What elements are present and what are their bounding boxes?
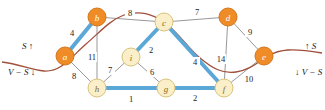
edge-weight-fg: 2	[193, 93, 197, 103]
graph-node-f[interactable]: f	[215, 79, 233, 97]
edge-weight-hi: 7	[108, 65, 112, 75]
mst-cut-diagram: abcdefghi48811724914102176S ↑V − S ↓↑ S↓…	[0, 0, 325, 110]
node-label-d: d	[226, 13, 231, 23]
edge-weight-de: 9	[248, 27, 252, 37]
edge-weight-df: 14	[217, 54, 226, 64]
graph-node-e[interactable]: e	[255, 47, 273, 65]
tree-edge-cf	[164, 22, 224, 88]
edge-weight-cd: 7	[195, 7, 199, 17]
cut-label-left-bottom: V − S ↓	[8, 67, 35, 77]
edge-weight-ah: 8	[72, 71, 76, 81]
graph-edge-cd	[164, 17, 228, 22]
node-label-b: b	[95, 13, 100, 23]
graph-node-h[interactable]: h	[88, 79, 106, 97]
node-label-c: c	[162, 18, 166, 28]
graph-node-c[interactable]: c	[155, 13, 173, 31]
graph-edge-df	[224, 17, 228, 88]
graph-node-d[interactable]: d	[219, 8, 237, 26]
edge-weight-gh: 1	[129, 94, 133, 104]
diagram-canvas: abcdefghi48811724914102176S ↑V − S ↓↑ S↓…	[0, 0, 325, 110]
cut-label-left-top: S ↑	[22, 41, 33, 51]
node-label-a: a	[63, 52, 68, 62]
edge-weight-ig: 6	[150, 67, 154, 77]
graph-node-a[interactable]: a	[56, 47, 74, 65]
graph-node-i[interactable]: i	[122, 48, 140, 66]
graph-node-g[interactable]: g	[157, 79, 175, 97]
node-label-h: h	[95, 84, 100, 94]
edge-weight-bc: 8	[128, 8, 132, 18]
cut-label-right-bottom: ↓ V − S	[295, 67, 323, 77]
node-label-e: e	[262, 52, 266, 62]
graph-node-b[interactable]: b	[88, 8, 106, 26]
cut-label-right-top: ↑ S	[305, 41, 317, 51]
node-label-g: g	[164, 84, 169, 94]
edge-weight-bh: 11	[88, 52, 96, 62]
edge-weight-ef: 10	[245, 74, 254, 84]
edge-weight-ci: 2	[149, 45, 153, 55]
